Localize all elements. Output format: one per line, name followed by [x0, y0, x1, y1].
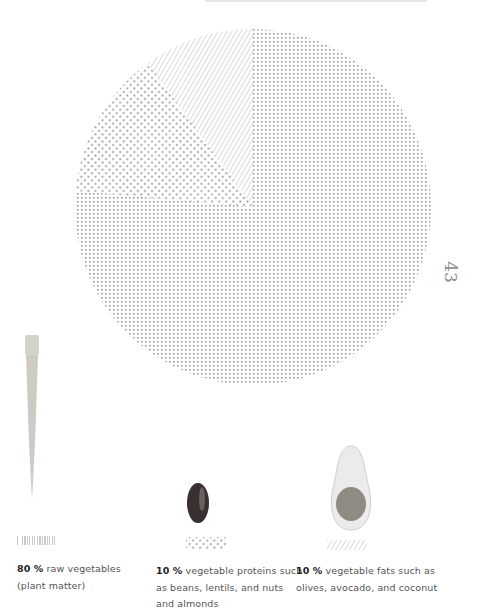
legend-percent: 10 % — [296, 565, 322, 576]
pie-chart — [0, 0, 490, 400]
avocado-icon — [326, 444, 376, 534]
bean-icon — [183, 479, 213, 529]
page-number: 43 — [441, 261, 461, 283]
legend-percent: 80 % — [17, 563, 43, 574]
legend-item-raw-vegetables: 80 % raw vegetables (plant matter) — [17, 561, 121, 594]
swatch-grid-dots — [17, 536, 55, 545]
legend-percent: 10 % — [156, 565, 182, 576]
legend-item-vegetable-fats: 10 % vegetable fats such as olives, avoc… — [296, 563, 437, 596]
swatch-diagonal-dots — [186, 537, 226, 549]
carrot-icon — [16, 333, 46, 503]
legend-item-vegetable-proteins: 10 % vegetable proteins such as beans, l… — [156, 563, 302, 610]
swatch-diagonal-hatch — [327, 540, 367, 550]
